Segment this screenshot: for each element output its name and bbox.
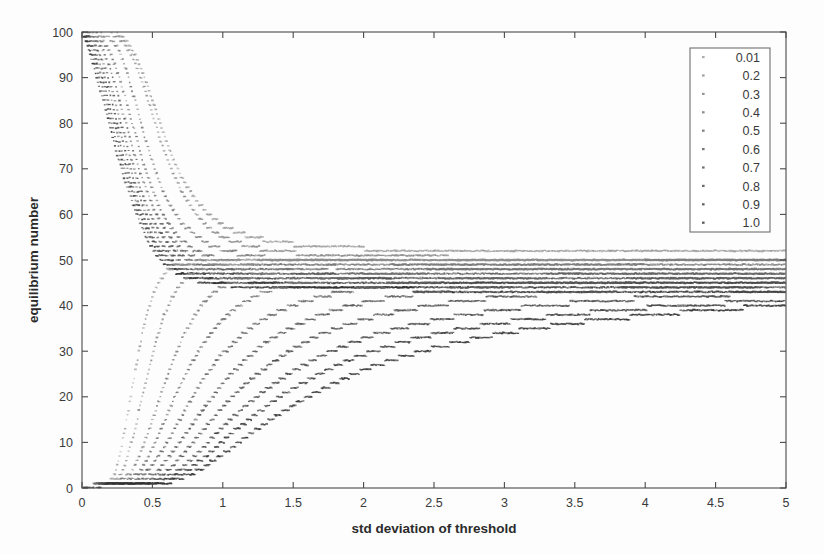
axis-ticks-layer: 00.511.522.533.544.550102030405060708090…	[52, 26, 789, 511]
y-tick-label: 80	[59, 117, 73, 131]
legend-label: 0.01	[736, 51, 760, 65]
legend-label: 0.7	[743, 161, 760, 175]
legend-label: 1.0	[743, 216, 760, 230]
series-0.5	[85, 32, 785, 275]
x-tick-label: 3.5	[566, 496, 583, 510]
y-axis-title: equilibrium number	[26, 196, 41, 323]
y-tick-label: 20	[59, 390, 73, 404]
y-tick-label: 100	[52, 26, 73, 40]
y-tick-label: 40	[59, 299, 73, 313]
figure-container: 00.511.522.533.544.550102030405060708090…	[0, 0, 824, 554]
axis-labels-layer: std deviation of thresholdequilibrium nu…	[26, 196, 517, 536]
y-tick-label: 0	[66, 482, 73, 496]
legend-label: 0.6	[743, 143, 760, 157]
x-tick-label: 1	[219, 496, 226, 510]
y-tick-label: 10	[59, 436, 73, 450]
y-tick-label: 50	[59, 254, 73, 268]
legend-label: 0.8	[743, 180, 760, 194]
y-tick-label: 90	[59, 71, 73, 85]
x-tick-label: 4.5	[707, 496, 724, 510]
series-0.01	[92, 32, 786, 253]
series-0.3	[82, 32, 786, 266]
y-tick-label: 60	[59, 208, 73, 222]
series-0.8-lower	[85, 291, 786, 489]
legend-label: 0.9	[743, 198, 760, 212]
x-tick-label: 0	[79, 496, 86, 510]
x-axis-title: std deviation of threshold	[351, 521, 516, 536]
legend-label: 0.2	[743, 69, 760, 83]
x-tick-label: 5	[783, 496, 790, 510]
series-0.4-lower	[84, 268, 786, 488]
series-layer	[82, 32, 786, 489]
x-tick-label: 2.5	[425, 496, 442, 510]
legend-label: 0.3	[743, 88, 760, 102]
series-0.7-lower	[83, 281, 786, 488]
chart-legend[interactable]: 0.010.20.30.40.50.60.70.80.91.0	[690, 48, 770, 232]
y-tick-label: 70	[59, 162, 73, 176]
series-0.4	[82, 32, 786, 271]
legend-label: 0.5	[743, 124, 760, 138]
series-1.0-lower	[106, 304, 786, 485]
series-0.6-lower	[85, 277, 786, 488]
x-tick-label: 2	[360, 496, 367, 510]
x-tick-label: 1.5	[285, 496, 302, 510]
series-0.3-lower	[85, 259, 786, 489]
x-tick-label: 3	[501, 496, 508, 510]
series-0.6	[85, 35, 785, 279]
series-0.2-lower	[87, 258, 786, 488]
legend-label: 0.4	[743, 106, 760, 120]
x-tick-label: 0.5	[144, 496, 161, 510]
x-tick-label: 4	[642, 496, 649, 510]
y-tick-label: 30	[59, 345, 73, 359]
series-0.2	[90, 32, 786, 262]
chart-canvas: 00.511.522.533.544.550102030405060708090…	[0, 0, 824, 554]
